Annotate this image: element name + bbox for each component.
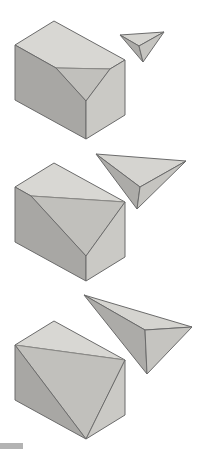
tet-right-face — [145, 327, 192, 374]
geometry-figure — [0, 0, 198, 449]
partial-gray-bar — [0, 443, 23, 449]
row-small-slice — [15, 21, 164, 139]
row-large-slice — [15, 295, 192, 439]
box-medium-corner-cut — [15, 163, 125, 281]
page — [0, 0, 198, 449]
box-large-corner-cut — [15, 321, 125, 439]
box-small-corner-cut — [15, 21, 125, 139]
tetrahedron-small — [120, 32, 164, 62]
row-medium-slice — [15, 154, 186, 281]
